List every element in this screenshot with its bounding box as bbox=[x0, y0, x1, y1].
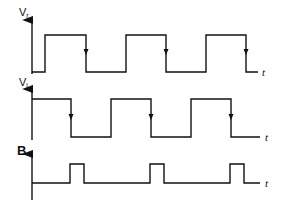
b-waveform bbox=[32, 164, 260, 183]
down-arrow-icon bbox=[229, 114, 234, 120]
down-arrow-icon bbox=[149, 114, 154, 120]
vr-time-label: t bbox=[262, 66, 266, 78]
down-arrow-icon bbox=[164, 49, 169, 55]
vr-transition-arrow-icons bbox=[84, 49, 249, 55]
down-arrow-icon bbox=[244, 49, 249, 55]
down-arrow-icon bbox=[84, 49, 89, 55]
down-arrow-icon bbox=[69, 114, 74, 120]
vr-waveform bbox=[32, 35, 258, 72]
trace-vr: Vr t bbox=[19, 6, 266, 78]
vi-waveform bbox=[32, 99, 260, 137]
timing-diagram: Vr t Vi t B t bbox=[0, 0, 284, 209]
trace-b: B t bbox=[17, 143, 269, 200]
trace-vi: Vi t bbox=[19, 76, 269, 143]
vi-label: Vi bbox=[19, 76, 28, 89]
vr-label: Vr bbox=[19, 6, 29, 19]
b-time-label: t bbox=[265, 177, 269, 189]
vi-time-label: t bbox=[265, 131, 269, 143]
b-label: B bbox=[17, 143, 26, 158]
vi-transition-arrow-icons bbox=[69, 114, 234, 120]
